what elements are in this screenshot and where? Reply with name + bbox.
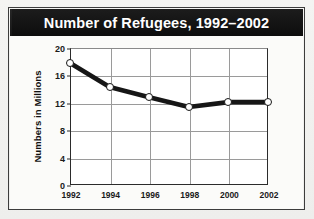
title-banner: Number of Refugees, 1992–2002 [10, 9, 303, 36]
x-gridline [190, 49, 191, 184]
y-tick-label: 12 [55, 99, 65, 109]
x-tick-label: 1996 [141, 190, 160, 200]
y-tick-mark [67, 49, 71, 50]
y-tick-label: 4 [60, 154, 65, 164]
x-tick-label: 1998 [180, 190, 199, 200]
x-gridline [111, 49, 112, 184]
y-gridline [71, 159, 267, 160]
x-tick-label: 2000 [220, 190, 239, 200]
y-gridline [71, 131, 267, 132]
y-gridline [71, 104, 267, 105]
y-tick-label: 20 [55, 44, 65, 54]
x-tick-label: 1992 [62, 190, 81, 200]
plot-area: 048121620199219941996199820002002 [70, 48, 268, 185]
y-tick-mark [67, 186, 71, 187]
y-tick-mark [67, 131, 71, 132]
x-gridline [150, 49, 151, 184]
data-point-marker [106, 83, 114, 91]
y-tick-mark [67, 103, 71, 104]
data-point-marker [185, 103, 193, 111]
chart-title: Number of Refugees, 1992–2002 [44, 15, 269, 31]
y-tick-mark [67, 76, 71, 77]
y-gridline [71, 76, 267, 77]
data-point-marker [66, 59, 74, 67]
y-tick-label: 16 [55, 71, 65, 81]
chart-screenshot: Number of Refugees, 1992–2002 Numbers in… [0, 0, 314, 219]
x-tick-label: 1994 [101, 190, 120, 200]
x-gridline [229, 49, 230, 184]
y-tick-mark [67, 158, 71, 159]
y-tick-label: 8 [60, 126, 65, 136]
y-axis-title: Numbers in Millions [30, 48, 44, 185]
y-axis-title-text: Numbers in Millions [32, 70, 43, 162]
x-tick-label: 2002 [260, 190, 279, 200]
